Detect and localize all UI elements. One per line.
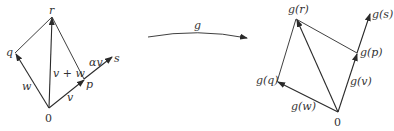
edge-gr-gp xyxy=(296,19,357,53)
vector-v-plus-w-arrow xyxy=(49,18,52,108)
label-s: s xyxy=(114,52,120,65)
label-w: w xyxy=(22,80,32,93)
map-g: g xyxy=(148,19,247,38)
edge-gq-gr xyxy=(277,19,296,82)
left-figure: r q w v + w v p αv s 0 xyxy=(6,4,120,125)
label-g-q: g(q) xyxy=(256,74,279,87)
right-figure: g(r) g(s) g(p) g(q) g(v) g(w) 0 xyxy=(256,3,393,129)
label-v: v xyxy=(67,91,74,104)
map-arrow xyxy=(148,33,247,38)
label-g-s: g(s) xyxy=(372,8,393,21)
linear-map-diagram: r q w v + w v p αv s 0 g g(r) g(s) g(p) … xyxy=(0,0,394,131)
label-v-plus-w: v + w xyxy=(53,67,85,80)
label-q: q xyxy=(6,46,13,59)
label-map-g: g xyxy=(194,19,201,32)
edge-q-r xyxy=(15,17,52,53)
label-g-v: g(v) xyxy=(350,75,372,88)
label-g-p: g(p) xyxy=(360,46,383,59)
label-origin-left: 0 xyxy=(45,112,52,125)
label-origin-right: 0 xyxy=(334,116,341,129)
label-alpha-v: αv xyxy=(89,56,103,69)
vector-gr-arrow xyxy=(297,20,338,112)
label-r: r xyxy=(49,4,55,17)
label-g-r: g(r) xyxy=(288,3,309,16)
label-p: p xyxy=(86,78,93,91)
vector-w-arrow xyxy=(16,54,49,108)
label-g-w: g(w) xyxy=(291,100,316,113)
